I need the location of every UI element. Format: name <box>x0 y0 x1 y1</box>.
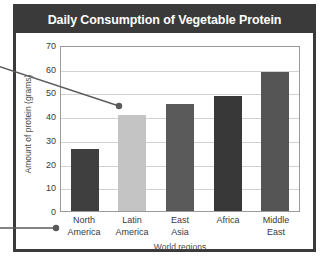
y-axis-tick-label: 50 <box>34 89 56 98</box>
y-axis-tick-label: 60 <box>34 65 56 74</box>
bar-latin-america[interactable] <box>118 115 146 211</box>
x-axis-tick-label-north-america: North America <box>60 215 108 238</box>
bar-north-america[interactable] <box>71 149 99 211</box>
chart-title-bar: Daily Consumption of Vegetable Protein <box>16 7 313 33</box>
bar-slot <box>109 47 157 211</box>
y-axis-title: Amount of protein (grams) <box>22 49 34 199</box>
x-tick-line-1: Africa <box>204 215 252 227</box>
x-axis-tick-labels: North America Latin America East Asia Af… <box>60 215 300 238</box>
bar-series <box>61 47 299 211</box>
y-axis-tick-label: 30 <box>34 136 56 145</box>
bar-east-asia[interactable] <box>166 104 194 211</box>
x-tick-line-1: Middle <box>252 215 300 227</box>
x-tick-line-1: Latin <box>108 215 156 227</box>
chart-figure-frame: Daily Consumption of Vegetable Protein A… <box>13 4 316 252</box>
x-tick-line-2: East <box>252 227 300 239</box>
x-tick-line-2: America <box>108 227 156 239</box>
chart-body: Amount of protein (grams) 70 60 50 40 30… <box>16 33 313 249</box>
x-axis-title: World regions <box>60 242 300 252</box>
bar-middle-east[interactable] <box>261 72 289 211</box>
x-axis-tick-label-africa: Africa <box>204 215 252 238</box>
bar-slot <box>251 47 299 211</box>
plot-area <box>60 46 300 212</box>
y-axis-tick-label: 70 <box>34 42 56 51</box>
y-axis-tick-label: 40 <box>34 113 56 122</box>
x-tick-line-1: North <box>60 215 108 227</box>
bar-africa[interactable] <box>214 96 242 211</box>
y-axis-tick-label: 10 <box>34 184 56 193</box>
bar-slot <box>61 47 109 211</box>
y-axis-tick-label: 0 <box>34 208 56 217</box>
bar-slot <box>204 47 252 211</box>
y-axis-tick-label: 20 <box>34 160 56 169</box>
x-axis-tick-label-latin-america: Latin America <box>108 215 156 238</box>
x-tick-line-2: America <box>60 227 108 239</box>
chart-title: Daily Consumption of Vegetable Protein <box>48 13 282 27</box>
x-axis-tick-label-middle-east: Middle East <box>252 215 300 238</box>
x-axis-tick-label-east-asia: East Asia <box>156 215 204 238</box>
x-tick-line-1: East <box>156 215 204 227</box>
y-axis-tick-labels: 70 60 50 40 30 20 10 0 <box>34 46 56 212</box>
bar-slot <box>156 47 204 211</box>
x-tick-line-2: Asia <box>156 227 204 239</box>
